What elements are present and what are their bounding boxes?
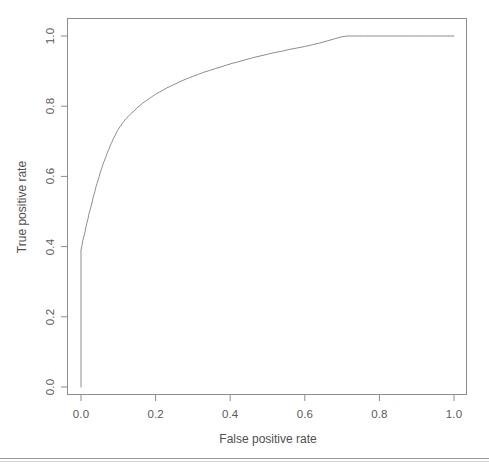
x-tick-label: 0.2 [147,408,163,420]
y-tick-label: 0.8 [44,98,56,114]
x-axis-ticks [81,395,454,401]
x-tick-label: 1.0 [446,408,462,420]
y-axis-title: True positive rate [15,161,29,253]
x-tick-label: 0.8 [371,408,387,420]
page-edge-rule-secondary [0,461,489,462]
x-axis-title: False positive rate [219,432,316,446]
plot-frame [67,18,467,395]
roc-chart-figure: 0.00.20.40.60.81.0 0.00.20.40.60.81.0 Fa… [0,0,489,465]
y-tick-label: 0.0 [44,379,56,395]
x-tick-label: 0.4 [222,408,238,420]
y-tick-label: 0.4 [44,238,56,254]
y-tick-label: 0.6 [44,168,56,184]
x-tick-label: 0.6 [297,408,313,420]
x-tick-label: 0.0 [73,408,89,420]
y-tick-label: 0.2 [44,309,56,325]
y-tick-label: 1.0 [44,28,56,44]
page-edge-rule [0,458,489,459]
